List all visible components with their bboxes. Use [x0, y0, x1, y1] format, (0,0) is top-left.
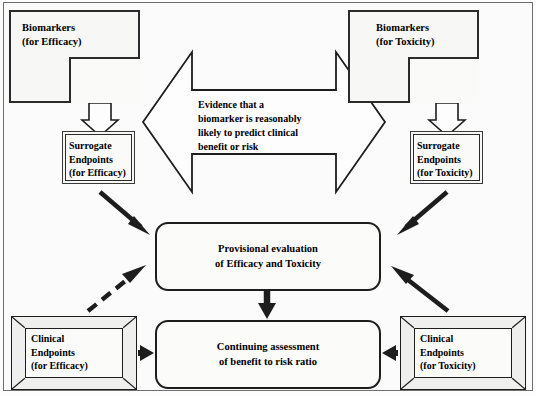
arrow-clinical-efficacy-to-provisional: [88, 265, 146, 311]
provisional-evaluation-label: Provisional evaluation of Efficacy and T…: [215, 242, 321, 272]
provisional-evaluation-box[interactable]: Provisional evaluation of Efficacy and T…: [155, 222, 381, 291]
evidence-statement-label: Evidence that a biomarker is reasonably …: [198, 98, 334, 154]
biomarker-efficacy-box[interactable]: Biomarkers (for Efficacy): [9, 10, 140, 103]
surrogate-endpoints-toxicity-box[interactable]: Surrogate Endpoints (for Toxicity): [410, 131, 483, 184]
clinical-endpoints-efficacy-box[interactable]: Clinical Endpoints (for Efficacy): [11, 316, 137, 390]
continuing-assessment-box[interactable]: Continuing assessment of benefit to risk…: [155, 320, 381, 389]
arrow-clinical-toxicity-to-continuing: [382, 345, 398, 361]
biomarker-toxicity-label: Biomarkers (for Toxicity): [376, 21, 434, 49]
continuing-assessment-label: Continuing assessment of benefit to risk…: [217, 340, 319, 370]
arrow-clinical-toxicity-to-provisional: [391, 266, 448, 311]
arrow-surrogate-toxicity-to-provisional: [397, 192, 447, 235]
surrogate-endpoints-toxicity-label: Surrogate Endpoints (for Toxicity): [417, 139, 473, 180]
diagram-canvas: Biomarkers (for Efficacy) Biomarkers (fo…: [0, 0, 536, 396]
surrogate-toxicity-inner-border: Surrogate Endpoints (for Toxicity): [413, 134, 480, 181]
biomarker-toxicity-inner-rectangle: [408, 57, 479, 103]
arrow-surrogate-efficacy-to-provisional: [100, 192, 150, 235]
clinical-endpoints-efficacy-label: Clinical Endpoints (for Efficacy): [31, 332, 88, 373]
biomarker-efficacy-label: Biomarkers (for Efficacy): [22, 21, 82, 49]
surrogate-endpoints-efficacy-box[interactable]: Surrogate Endpoints (for Efficacy): [62, 131, 135, 184]
surrogate-endpoints-efficacy-label: Surrogate Endpoints (for Efficacy): [69, 139, 126, 180]
surrogate-efficacy-inner-border: Surrogate Endpoints (for Efficacy): [65, 134, 132, 181]
arrow-provisional-to-continuing: [258, 291, 276, 319]
arrow-clinical-efficacy-to-continuing: [138, 345, 154, 361]
biomarker-toxicity-box[interactable]: Biomarkers (for Toxicity): [348, 10, 479, 103]
clinical-endpoints-toxicity-label: Clinical Endpoints (for Toxicity): [420, 332, 476, 373]
biomarker-efficacy-inner-rectangle: [69, 57, 140, 103]
clinical-endpoints-toxicity-box[interactable]: Clinical Endpoints (for Toxicity): [400, 316, 526, 390]
